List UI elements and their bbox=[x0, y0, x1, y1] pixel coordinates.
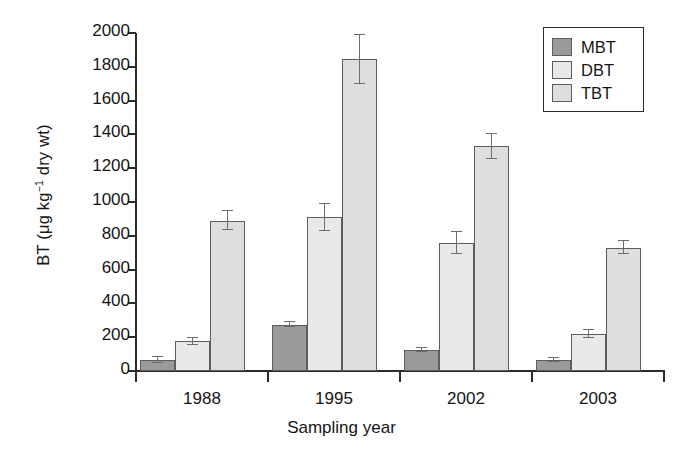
y-tick-label: 600 bbox=[102, 258, 130, 278]
x-tick-label-2003: 2003 bbox=[532, 389, 664, 409]
error-bar-DBT-2002 bbox=[456, 232, 457, 254]
bar-MBT-1995[interactable] bbox=[272, 325, 307, 371]
x-tick-label-1995: 1995 bbox=[268, 389, 400, 409]
error-cap-lower-TBT-2002 bbox=[486, 158, 497, 159]
error-cap-lower-MBT-1995 bbox=[284, 326, 295, 327]
error-cap-upper-TBT-2003 bbox=[618, 240, 629, 241]
y-tick-label: 400 bbox=[102, 291, 130, 311]
error-cap-lower-DBT-2003 bbox=[583, 337, 594, 338]
x-tick-mark bbox=[267, 372, 269, 382]
legend-label-MBT: MBT bbox=[581, 38, 616, 56]
y-tick-label: 0 bbox=[121, 359, 130, 379]
bar-DBT-1995[interactable] bbox=[307, 217, 342, 371]
y-tick-label: 800 bbox=[102, 224, 130, 244]
legend-item-TBT[interactable]: TBT bbox=[552, 81, 635, 104]
bar-group-1995 bbox=[268, 33, 400, 371]
bar-group-1988 bbox=[136, 33, 268, 371]
y-tick-label: 1800 bbox=[92, 55, 130, 75]
error-cap-lower-TBT-1988 bbox=[222, 229, 233, 230]
y-tick-label: 1400 bbox=[92, 122, 130, 142]
y-axis-title: BT (μg kg−1 dry wt) bbox=[33, 45, 53, 345]
legend-label-DBT: DBT bbox=[581, 61, 614, 79]
bar-DBT-2003[interactable] bbox=[571, 334, 606, 371]
error-cap-lower-DBT-1988 bbox=[187, 344, 198, 345]
y-axis-title-prefix: BT (μg kg bbox=[34, 192, 52, 265]
error-cap-lower-MBT-2002 bbox=[416, 351, 427, 352]
error-cap-upper-TBT-1988 bbox=[222, 210, 233, 211]
bar-group-2002 bbox=[400, 33, 532, 371]
y-axis-title-suffix: dry wt) bbox=[34, 124, 52, 180]
error-cap-upper-DBT-2002 bbox=[451, 231, 462, 232]
error-cap-lower-DBT-1995 bbox=[319, 230, 330, 231]
error-bar-TBT-2002 bbox=[491, 134, 492, 159]
error-cap-upper-MBT-2002 bbox=[416, 347, 427, 348]
y-axis-title-exponent: −1 bbox=[33, 180, 45, 192]
bar-chart-figure: BT (μg kg−1 dry wt) 02004006008001000120… bbox=[0, 0, 683, 462]
error-cap-upper-MBT-1995 bbox=[284, 321, 295, 322]
x-tick-mark bbox=[663, 372, 665, 382]
x-tick-mark bbox=[399, 372, 401, 382]
x-tick-label-2002: 2002 bbox=[400, 389, 532, 409]
error-cap-upper-TBT-2002 bbox=[486, 133, 497, 134]
error-bar-TBT-2003 bbox=[623, 241, 624, 255]
error-bar-DBT-1995 bbox=[324, 204, 325, 231]
error-cap-upper-MBT-2003 bbox=[548, 357, 559, 358]
error-cap-upper-DBT-2003 bbox=[583, 329, 594, 330]
error-cap-upper-MBT-1988 bbox=[152, 356, 163, 357]
bar-DBT-1988[interactable] bbox=[175, 341, 210, 371]
error-bar-TBT-1988 bbox=[227, 211, 228, 230]
legend-swatch-TBT bbox=[552, 84, 572, 102]
legend-swatch-DBT bbox=[552, 61, 572, 79]
error-cap-lower-MBT-2003 bbox=[548, 361, 559, 362]
x-tick-mark bbox=[531, 372, 533, 382]
legend-item-MBT[interactable]: MBT bbox=[552, 35, 635, 58]
y-tick-label: 200 bbox=[102, 325, 130, 345]
x-tick-mark bbox=[135, 372, 137, 382]
legend-swatch-MBT bbox=[552, 38, 572, 56]
y-tick-label: 1600 bbox=[92, 89, 130, 109]
bar-TBT-2002[interactable] bbox=[474, 146, 509, 371]
y-tick-label: 1000 bbox=[92, 190, 130, 210]
legend: MBTDBTTBT bbox=[543, 27, 644, 112]
error-cap-lower-MBT-1988 bbox=[152, 362, 163, 363]
x-axis-title: Sampling year bbox=[0, 418, 683, 438]
error-cap-lower-TBT-2003 bbox=[618, 253, 629, 254]
bar-TBT-1988[interactable] bbox=[210, 221, 245, 371]
bar-TBT-2003[interactable] bbox=[606, 248, 641, 371]
error-cap-upper-DBT-1988 bbox=[187, 337, 198, 338]
bar-MBT-2002[interactable] bbox=[404, 350, 439, 371]
error-cap-upper-DBT-1995 bbox=[319, 203, 330, 204]
bar-DBT-2002[interactable] bbox=[439, 243, 474, 371]
bar-TBT-1995[interactable] bbox=[342, 59, 377, 371]
legend-item-DBT[interactable]: DBT bbox=[552, 58, 635, 81]
y-tick-label: 2000 bbox=[92, 21, 130, 41]
x-tick-label-1988: 1988 bbox=[136, 389, 268, 409]
y-tick-label: 1200 bbox=[92, 156, 130, 176]
error-cap-upper-TBT-1995 bbox=[354, 34, 365, 35]
error-cap-lower-DBT-2002 bbox=[451, 253, 462, 254]
error-bar-TBT-1995 bbox=[359, 35, 360, 84]
error-cap-lower-TBT-1995 bbox=[354, 83, 365, 84]
legend-label-TBT: TBT bbox=[581, 84, 612, 102]
